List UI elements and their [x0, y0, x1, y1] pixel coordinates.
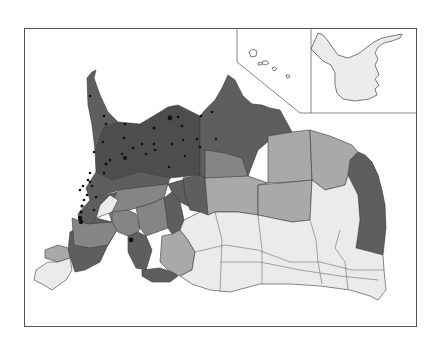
- island-inset: [249, 49, 290, 78]
- choropleth-map: [0, 0, 441, 344]
- alaska-inset: [311, 33, 402, 101]
